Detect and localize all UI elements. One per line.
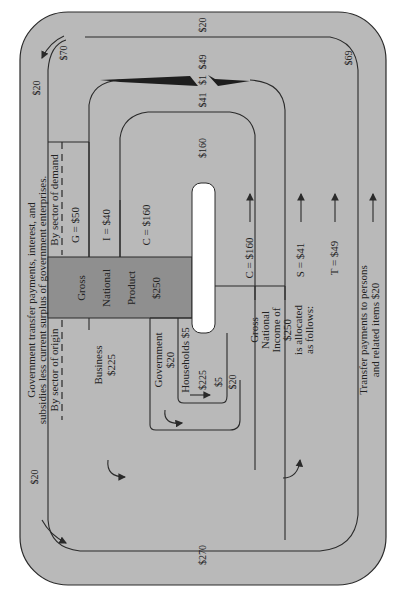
flow-225: $225 xyxy=(197,370,208,390)
gnp-line2: National xyxy=(100,269,112,307)
flow-20-bottomleft: $20 xyxy=(29,470,40,485)
alloc-c: C = $160 xyxy=(243,237,255,279)
business-value: $225 xyxy=(105,354,117,377)
flow-20-topright: $20 xyxy=(197,18,208,33)
flow-270: $270 xyxy=(197,545,208,565)
center-slot xyxy=(192,183,215,333)
government-label: Government xyxy=(152,333,164,388)
flow-49: $49 xyxy=(197,55,208,70)
transfer-line1: Transfer payments to persons xyxy=(357,265,369,394)
demand-i: I = $40 xyxy=(100,209,112,241)
flow-1: $1 xyxy=(197,75,208,85)
by-origin-label: By sector of origin xyxy=(48,328,60,411)
gnp-value: $250 xyxy=(150,277,162,300)
demand-g: G = $50 xyxy=(69,206,81,243)
flow-20-inner: $20 xyxy=(227,375,238,390)
circular-flow-diagram: Government transfer payments, interest, … xyxy=(0,0,399,597)
gni-line6: as follows: xyxy=(303,306,315,354)
by-demand-label: By sector of demand xyxy=(48,154,60,246)
header-text: Government transfer payments, interest, … xyxy=(25,176,48,425)
flow-70: $70 xyxy=(58,46,69,61)
flow-160: $160 xyxy=(197,138,208,158)
gnp-line3: Product xyxy=(125,271,137,305)
gnp-box xyxy=(48,257,192,318)
demand-c: C = $160 xyxy=(140,204,152,246)
alloc-s: S = $41 xyxy=(294,243,306,277)
flow-41: $41 xyxy=(197,93,208,108)
gnp-line1: Gross xyxy=(75,275,87,301)
flow-20-topleft: $20 xyxy=(31,81,42,96)
alloc-t: T = $49 xyxy=(328,240,340,275)
business-label: Business xyxy=(92,345,104,384)
svg-text:subsidies less current surplus: subsidies less current surplus of govern… xyxy=(36,176,48,425)
flow-69: $69 xyxy=(343,51,354,66)
households-label: Households $5 xyxy=(179,327,191,393)
transfer-line2: and related items $20 xyxy=(369,282,381,377)
flow-5: $5 xyxy=(213,377,224,387)
government-value: $20 xyxy=(164,351,176,368)
